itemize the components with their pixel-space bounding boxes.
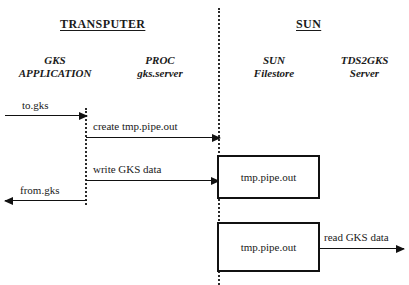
arrow-from-gks <box>5 200 87 201</box>
file-box-tmp-pipe-out-lower: tmp.pipe.out <box>217 222 320 272</box>
column-label-sun-filestore-line1: SUN <box>224 54 324 67</box>
column-label-gks-application-line2: APPLICATION <box>0 67 110 80</box>
arrow-label-write: write GKS data <box>93 163 161 175</box>
file-box-tmp-pipe-out-upper: tmp.pipe.out <box>217 155 320 199</box>
column-label-proc-gks-server: PROC gks.server <box>105 54 215 80</box>
arrow-create-tmp-pipe-out <box>86 137 220 138</box>
arrow-label-to-gks: to.gks <box>22 99 49 111</box>
arrow-label-from-gks: from.gks <box>20 184 59 196</box>
column-label-tds2gks-server-line2: Server <box>320 67 409 80</box>
arrowhead-left-icon <box>4 197 13 205</box>
arrowhead-right-icon <box>396 245 405 253</box>
sequence-diagram: TRANSPUTER SUN GKS APPLICATION PROC gks.… <box>0 0 409 285</box>
arrow-write-gks-data <box>86 180 219 181</box>
arrowhead-right-icon <box>212 134 221 142</box>
arrow-label-create: create tmp.pipe.out <box>93 120 178 132</box>
column-label-sun-filestore: SUN Filestore <box>224 54 324 80</box>
arrow-to-gks <box>5 115 87 116</box>
heading-transputer: TRANSPUTER <box>60 17 145 32</box>
lifeline-gks-server <box>85 108 87 205</box>
column-label-proc-gks-server-line1: PROC <box>105 54 215 67</box>
column-label-sun-filestore-line2: Filestore <box>224 67 324 80</box>
column-label-proc-gks-server-line2: gks.server <box>105 67 215 80</box>
column-label-tds2gks-server-line1: TDS2GKS <box>320 54 409 67</box>
heading-sun: SUN <box>296 17 321 32</box>
column-label-gks-application: GKS APPLICATION <box>0 54 110 80</box>
column-label-tds2gks-server: TDS2GKS Server <box>320 54 409 80</box>
column-label-gks-application-line1: GKS <box>0 54 110 67</box>
arrow-label-read: read GKS data <box>324 231 389 243</box>
arrow-read-gks-data <box>316 248 404 249</box>
arrowhead-right-icon <box>79 112 88 120</box>
